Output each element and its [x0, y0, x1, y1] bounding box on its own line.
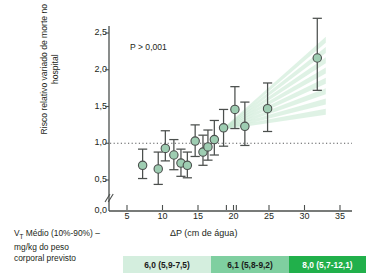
data-point — [219, 109, 228, 146]
data-marker — [210, 135, 218, 143]
data-marker — [161, 144, 169, 152]
legend-caption: VT Médio (10%-90%) – mg/kg do peso corpo… — [14, 228, 126, 265]
data-marker — [241, 122, 249, 130]
data-marker — [138, 161, 146, 169]
data-marker — [191, 137, 199, 145]
figure-relative-risk-vs-driving-pressure: Risco relativo variado de morte no hospi… — [0, 0, 366, 279]
data-point — [154, 152, 163, 184]
data-marker — [170, 151, 178, 159]
data-marker — [219, 124, 227, 132]
data-marker — [231, 105, 239, 113]
legend-color-bar: 6,0 (5,9-7,5)6,1 (5,8-9,2)8,0 (5,7-12,1) — [123, 256, 366, 273]
data-point — [161, 131, 170, 161]
legend-segment: 6,0 (5,9-7,5) — [123, 256, 211, 273]
data-point — [263, 83, 272, 132]
data-marker — [154, 165, 162, 173]
legend-caption-line2: mg/kg do peso — [14, 242, 69, 252]
legend-segment: 6,1 (5,8-9,2) — [211, 256, 289, 273]
data-marker — [204, 143, 212, 151]
legend-caption-line1: VT Médio (10%-90%) – — [14, 228, 100, 238]
confidence-band — [224, 37, 326, 130]
data-marker — [263, 105, 271, 113]
legend-caption-line3: corporal previsto — [14, 253, 76, 263]
data-point — [138, 149, 147, 178]
legend-segment: 8,0 (5,7-12,1) — [289, 256, 366, 273]
data-marker — [183, 161, 191, 169]
data-marker — [313, 54, 321, 62]
